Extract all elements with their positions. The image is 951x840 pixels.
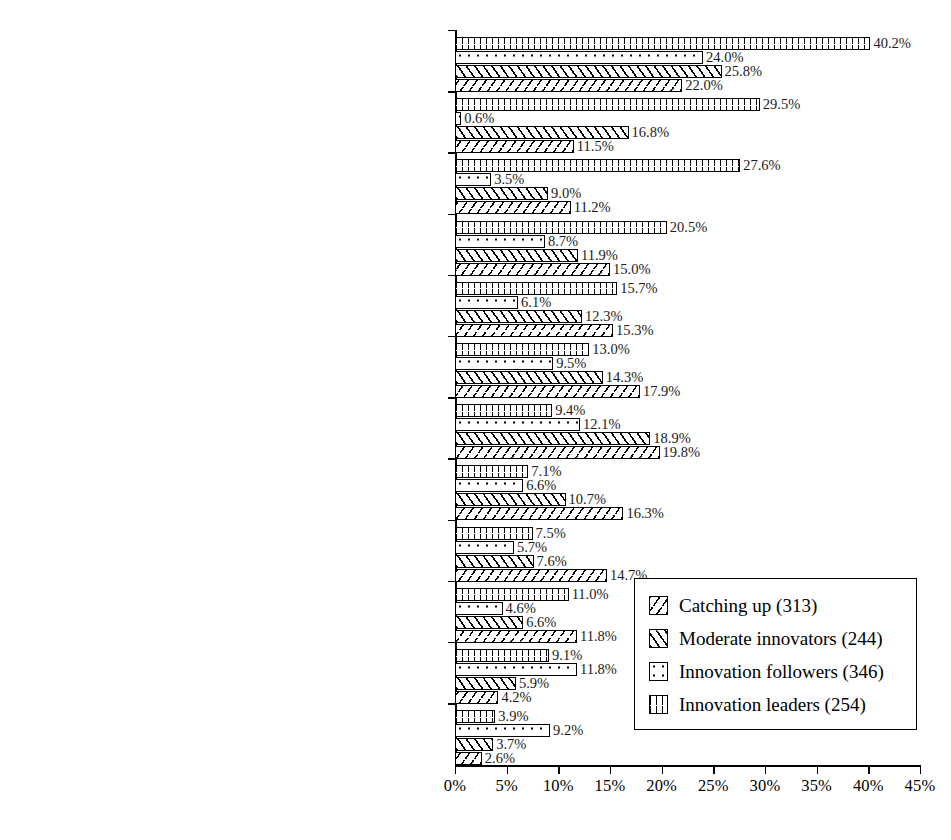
bar-innovation-followers[interactable] [455,602,503,615]
bar-value-label: 3.5% [491,171,524,188]
bar-row: 6.6% [455,479,920,492]
bar-catching-up[interactable] [455,691,498,704]
bar-catching-up[interactable] [455,752,482,765]
y-axis-category-tick [448,152,455,153]
bar-catching-up[interactable] [455,324,613,337]
bar-catching-up[interactable] [455,446,660,459]
y-axis-category-tick [448,275,455,276]
bar-innovation-leaders[interactable] [455,710,495,723]
y-axis-category-tick [448,581,455,582]
bar-innovation-followers[interactable] [455,357,553,370]
legend-swatch-innovation-leaders-icon [649,695,668,714]
bar-group: 15.7%6.1%12.3%15.3% [455,282,920,338]
bar-group: 7.1%6.6%10.7%16.3% [455,465,920,521]
bar-value-label: 0.6% [461,110,494,127]
bar-value-label: 9.5% [553,355,586,372]
bar-catching-up[interactable] [455,569,607,582]
bar-catching-up[interactable] [455,140,574,153]
legend-item[interactable]: Moderate innovators (244) [649,622,916,655]
bar-group: 27.6%3.5%9.0%11.2% [455,159,920,215]
bar-catching-up[interactable] [455,630,577,643]
bar-row: 27.6% [455,159,920,172]
x-axis-tick [817,765,818,774]
bar-innovation-followers[interactable] [455,235,545,248]
bar-value-label: 15.0% [610,261,650,278]
bar-row: 10.7% [455,493,920,506]
bar-moderate-innovators[interactable] [455,493,566,506]
bar-innovation-followers[interactable] [455,173,491,186]
bar-moderate-innovators[interactable] [455,310,582,323]
bar-row: 11.9% [455,249,920,262]
bar-group: 20.5%8.7%11.9%15.0% [455,221,920,277]
legend-label: Innovation followers (346) [679,661,884,683]
y-axis-category-tick [448,703,455,704]
legend-swatch-innovation-followers-icon [649,662,668,681]
bar-moderate-innovators[interactable] [455,555,534,568]
bar-innovation-followers[interactable] [455,479,523,492]
legend-label: Moderate innovators (244) [679,628,883,650]
bar-row: 16.3% [455,507,920,520]
bar-value-label: 19.8% [660,444,700,461]
bar-innovation-followers[interactable] [455,418,580,431]
bar-value-label: 14.3% [603,369,643,386]
bar-catching-up[interactable] [455,263,610,276]
bar-moderate-innovators[interactable] [455,432,650,445]
bar-innovation-leaders[interactable] [455,404,552,417]
bar-row: 15.3% [455,324,920,337]
x-axis-tick-label: 45% [890,776,950,796]
bar-row: 9.5% [455,357,920,370]
bar-innovation-leaders[interactable] [455,37,870,50]
bar-innovation-followers[interactable] [455,51,703,64]
bar-row: 11.5% [455,140,920,153]
bar-value-label: 11.8% [577,661,617,678]
bar-row: 2.6% [455,752,920,765]
bar-catching-up[interactable] [455,385,640,398]
bar-innovation-leaders[interactable] [455,649,549,662]
bar-group: 9.4%12.1%18.9%19.8% [455,404,920,460]
bar-value-label: 6.1% [518,294,551,311]
bar-value-label: 16.3% [623,505,663,522]
bar-catching-up[interactable] [455,201,571,214]
bar-catching-up[interactable] [455,79,682,92]
bar-value-label: 27.6% [740,157,780,174]
legend-item[interactable]: Innovation followers (346) [649,655,916,688]
x-axis-tick [868,765,869,774]
bar-group: 7.5%5.7%7.6%14.7% [455,527,920,583]
bar-value-label: 4.2% [498,689,531,706]
bar-moderate-innovators[interactable] [455,616,523,629]
bar-value-label: 11.5% [574,138,614,155]
legend-item[interactable]: Catching up (313) [649,589,916,622]
y-axis-category-tick [448,642,455,643]
x-axis-tick [765,765,766,774]
bar-row: 8.7% [455,235,920,248]
bar-value-label: 15.7% [617,280,657,297]
bar-row: 11.2% [455,201,920,214]
legend-label: Innovation leaders (254) [679,694,866,716]
bar-moderate-innovators[interactable] [455,249,578,262]
y-axis-category-tick [448,458,455,459]
bar-innovation-followers[interactable] [455,296,518,309]
bar-catching-up[interactable] [455,507,623,520]
bar-value-label: 3.9% [495,708,528,725]
bar-row: 29.5% [455,98,920,111]
y-axis-category-tick [448,91,455,92]
bar-innovation-leaders[interactable] [455,98,760,111]
bar-row: 14.3% [455,371,920,384]
bar-chart: 0%5%10%15%20%25%30%35%40%45% 2.2.3 R&D c… [0,0,951,840]
bar-innovation-followers[interactable] [455,541,514,554]
bar-row: 12.3% [455,310,920,323]
bar-group: 29.5%0.6%16.8%11.5% [455,98,920,154]
bar-row: 16.8% [455,126,920,139]
bar-row: 17.9% [455,385,920,398]
bar-innovation-leaders[interactable] [455,465,528,478]
bar-value-label: 6.6% [523,477,556,494]
bar-row: 9.0% [455,187,920,200]
bar-value-label: 9.2% [550,722,583,739]
bar-moderate-innovators[interactable] [455,371,603,384]
legend-item[interactable]: Innovation leaders (254) [649,688,916,721]
bar-row: 13.0% [455,343,920,356]
bar-moderate-innovators[interactable] [455,187,548,200]
bar-value-label: 6.6% [523,614,556,631]
bar-group: 40.2%24.0%25.8%22.0% [455,37,920,93]
bar-row: 19.8% [455,446,920,459]
